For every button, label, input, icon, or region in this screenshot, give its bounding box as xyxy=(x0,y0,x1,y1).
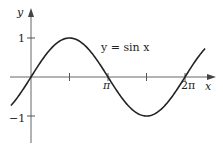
sine-graph: y 1 −1 π 2π x y = sin x xyxy=(0,0,223,147)
x-tick-label-2pi: 2π xyxy=(181,79,195,92)
x-axis-label: x xyxy=(205,80,212,93)
y-axis-label: y xyxy=(16,6,24,19)
y-tick-label-minus-1: −1 xyxy=(9,112,25,125)
curve-annotation: y = sin x xyxy=(100,41,150,54)
y-tick-label-1: 1 xyxy=(18,32,25,45)
x-tick-label-pi: π xyxy=(102,79,111,92)
y-axis-arrow-icon xyxy=(28,8,34,17)
chart-svg: y 1 −1 π 2π x y = sin x xyxy=(0,0,223,147)
